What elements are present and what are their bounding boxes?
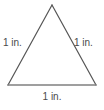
geometry-figure: 1 in. 1 in. 1 in. <box>0 0 104 110</box>
bottom-side-length-label: 1 in. <box>0 91 104 102</box>
left-side-length-label: 1 in. <box>3 37 22 48</box>
right-side-length-label: 1 in. <box>74 37 93 48</box>
